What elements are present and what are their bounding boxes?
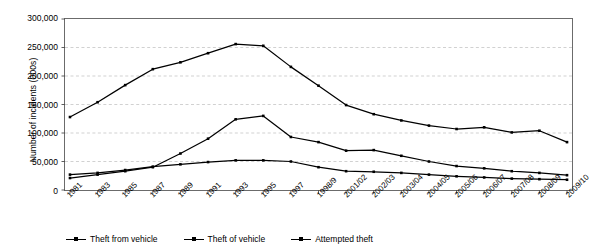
data-point [483, 167, 486, 170]
data-point [207, 137, 210, 140]
data-point [290, 66, 293, 69]
data-point [400, 119, 403, 122]
data-point [207, 161, 210, 164]
series-lines [65, 19, 572, 190]
data-point [372, 149, 375, 152]
legend-label: Theft of vehicle [208, 234, 266, 244]
series-2 [69, 159, 569, 181]
data-point [152, 68, 155, 71]
legend-item-1[interactable]: Theft of vehicle [184, 234, 266, 244]
data-point [317, 84, 320, 87]
data-point [483, 126, 486, 129]
data-point [234, 43, 237, 46]
data-point [510, 177, 513, 180]
data-point [262, 159, 265, 162]
data-point [124, 169, 127, 172]
data-point [538, 129, 541, 132]
data-point [538, 172, 541, 175]
data-point [262, 115, 265, 118]
y-tick-label: 200,000 [14, 72, 58, 80]
data-point [372, 113, 375, 116]
legend-label: Theft from vehicle [90, 234, 158, 244]
plot-area [64, 18, 573, 191]
data-point [69, 177, 72, 180]
series-0 [69, 43, 569, 144]
data-point [428, 173, 431, 176]
data-point [483, 176, 486, 179]
data-point [566, 178, 569, 181]
data-point [566, 141, 569, 144]
data-point [428, 124, 431, 127]
data-point [455, 128, 458, 131]
y-axis-tick-labels: 050,000100,000150,000200,000250,000300,0… [14, 0, 58, 252]
data-point [345, 104, 348, 107]
data-point [372, 170, 375, 173]
y-tick-label: 0 [14, 187, 58, 195]
chart-legend: Theft from vehicleTheft of vehicleAttemp… [66, 231, 373, 247]
legend-label: Attempted theft [315, 234, 373, 244]
data-point [96, 172, 99, 175]
data-point [262, 45, 265, 48]
data-point [96, 101, 99, 104]
data-point [179, 61, 182, 64]
y-tick-label: 50,000 [14, 158, 58, 166]
data-point [207, 52, 210, 55]
data-point [428, 160, 431, 163]
data-point [566, 174, 569, 177]
data-point [510, 131, 513, 134]
data-point [317, 141, 320, 144]
data-point [400, 155, 403, 158]
data-point [317, 166, 320, 169]
series-1 [69, 115, 569, 180]
data-point [510, 170, 513, 173]
data-point [234, 159, 237, 162]
data-point [290, 160, 293, 163]
data-point [455, 175, 458, 178]
data-point [234, 118, 237, 121]
data-point [400, 172, 403, 175]
y-tick-label: 250,000 [14, 43, 58, 51]
data-point [455, 165, 458, 168]
data-point [69, 116, 72, 119]
legend-item-2[interactable]: Attempted theft [291, 234, 373, 244]
data-point [179, 152, 182, 155]
legend-marker-icon [66, 235, 86, 244]
legend-marker-icon [291, 235, 311, 244]
y-tick-label: 100,000 [14, 129, 58, 137]
legend-item-0[interactable]: Theft from vehicle [66, 234, 158, 244]
data-point [290, 136, 293, 139]
y-tick-label: 150,000 [14, 101, 58, 109]
data-point [345, 170, 348, 173]
data-point [152, 165, 155, 168]
data-point [345, 149, 348, 152]
data-point [124, 84, 127, 87]
data-point [179, 163, 182, 166]
y-tick-label: 300,000 [14, 14, 58, 22]
legend-marker-icon [184, 235, 204, 244]
data-point [538, 178, 541, 181]
data-point [69, 173, 72, 176]
